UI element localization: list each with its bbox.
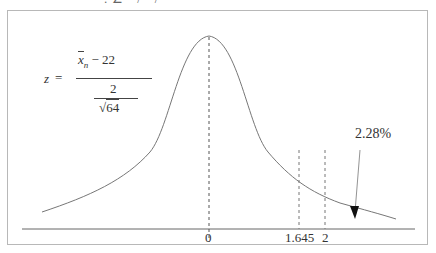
tick-label-1645: 1.645 bbox=[285, 230, 314, 246]
formula-minus-22: − 22 bbox=[92, 52, 116, 67]
formula-equals: = bbox=[55, 70, 62, 86]
formula-sqrt-arg: 64 bbox=[106, 99, 119, 115]
tick-label-2: 2 bbox=[322, 230, 329, 246]
formula-z: z bbox=[44, 71, 49, 87]
formula-numerator: xn − 22 bbox=[78, 52, 115, 70]
annotation-arrowhead-icon bbox=[350, 206, 359, 219]
formula-subscript: n bbox=[84, 60, 89, 70]
tail-probability-label: 2.28% bbox=[355, 126, 391, 142]
tick-label-0: 0 bbox=[205, 230, 212, 246]
formula-sqrt: √64 bbox=[99, 100, 119, 116]
annotation-arrow-shaft bbox=[355, 150, 360, 212]
formula-denominator-2: 2 bbox=[110, 81, 117, 97]
formula-main-fraction-bar bbox=[76, 78, 152, 79]
